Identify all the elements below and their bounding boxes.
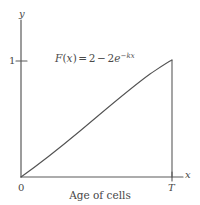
y-axis-label: y (19, 9, 25, 19)
equation-equals: = (77, 52, 89, 64)
figure-caption: Age of cells (0, 190, 200, 201)
equation-exponent: −kx (121, 52, 135, 60)
figure-container: y x 1 0 T F(x)=2−2e−kx Age of cells (0, 0, 200, 205)
equation-exponent-var: x (131, 52, 135, 60)
y-axis-tick-label-1: 1 (9, 56, 15, 66)
equation-minus: − (96, 52, 108, 64)
plot-area (0, 0, 200, 205)
function-curve (21, 60, 172, 177)
x-axis-label: x (185, 170, 191, 180)
equation-first-term: 2 (89, 52, 96, 64)
curve-equation-annotation: F(x)=2−2e−kx (55, 52, 135, 64)
